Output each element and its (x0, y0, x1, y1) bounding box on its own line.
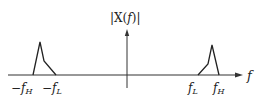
tick-label-pos-fL: fL (187, 81, 198, 96)
spectrum-diagram: |X(f)| f −fH −fL fL fH (0, 0, 265, 101)
magnitude-title: |X(f)| (110, 11, 140, 25)
frequency-axis-arrow-icon (235, 73, 243, 78)
left-band-spectrum (33, 42, 56, 75)
tick-label-neg-fL: −fL (42, 81, 62, 96)
magnitude-axis-arrow-icon (125, 29, 129, 36)
frequency-axis-label: f (246, 68, 254, 83)
diagram-svg: |X(f)| f −fH −fL fL fH (0, 0, 265, 101)
tick-label-neg-fH: −fH (11, 81, 34, 96)
tick-label-pos-fH: fH (212, 81, 225, 96)
right-band-spectrum (198, 45, 219, 75)
